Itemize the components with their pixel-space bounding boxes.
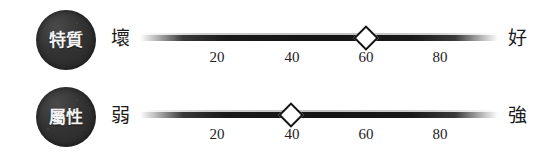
scale-tick-label: 80 bbox=[433, 127, 448, 142]
scale-tick-label: 60 bbox=[359, 50, 374, 65]
scale-right-label: 好 bbox=[508, 29, 527, 48]
diamond-marker-icon bbox=[277, 101, 305, 129]
scale-tick-label: 40 bbox=[285, 127, 300, 142]
scale-tick-label: 40 bbox=[285, 50, 300, 65]
scale-tick-label: 60 bbox=[359, 127, 374, 142]
scale-tick-label: 20 bbox=[210, 50, 225, 65]
scale-row: 屬性弱強20406080 bbox=[0, 79, 547, 157]
scale-row: 特質壞好20406080 bbox=[0, 2, 547, 80]
scale-bar bbox=[140, 112, 498, 118]
scale-tick-label: 20 bbox=[210, 127, 225, 142]
diamond-shape bbox=[279, 102, 304, 127]
category-badge-label: 屬性 bbox=[49, 109, 83, 126]
scale-bar bbox=[140, 35, 498, 41]
diamond-marker-icon bbox=[352, 24, 380, 52]
scale-left-label: 弱 bbox=[111, 106, 130, 125]
scale-left-label: 壞 bbox=[111, 29, 130, 48]
diamond-shape bbox=[353, 25, 378, 50]
category-badge: 特質 bbox=[36, 10, 96, 70]
scale-tick-label: 80 bbox=[433, 50, 448, 65]
category-badge-label: 特質 bbox=[49, 32, 83, 49]
scale-right-label: 強 bbox=[508, 106, 527, 125]
rating-scales-figure: 特質壞好20406080屬性弱強20406080 bbox=[0, 0, 547, 160]
category-badge: 屬性 bbox=[36, 87, 96, 147]
